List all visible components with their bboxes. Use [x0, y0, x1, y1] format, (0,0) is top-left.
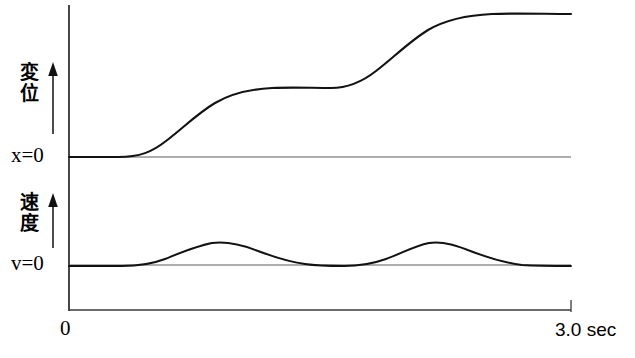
displacement-curve — [69, 14, 571, 157]
velocity-arrow-icon — [48, 193, 58, 248]
time-origin-label: 0 — [60, 318, 71, 339]
displacement-axis-label-char1: 変 — [16, 62, 42, 83]
velocity-axis-label-char2: 度 — [16, 213, 42, 234]
displacement-arrow-icon — [48, 62, 58, 134]
velocity-axis-label-char1: 速 — [16, 192, 42, 213]
velocity-zero-label: v=0 — [11, 253, 44, 274]
physics-motion-graph: 変 位 速 度 x=0 v=0 0 3.0 sec — [0, 0, 635, 358]
plot-canvas — [0, 0, 635, 358]
velocity-curve — [69, 242, 571, 266]
displacement-axis-label: 変 位 — [16, 62, 42, 105]
velocity-axis-label: 速 度 — [16, 192, 42, 235]
displacement-zero-label: x=0 — [11, 145, 44, 166]
time-max-label: 3.0 sec — [555, 320, 616, 339]
displacement-axis-label-char2: 位 — [16, 83, 42, 104]
